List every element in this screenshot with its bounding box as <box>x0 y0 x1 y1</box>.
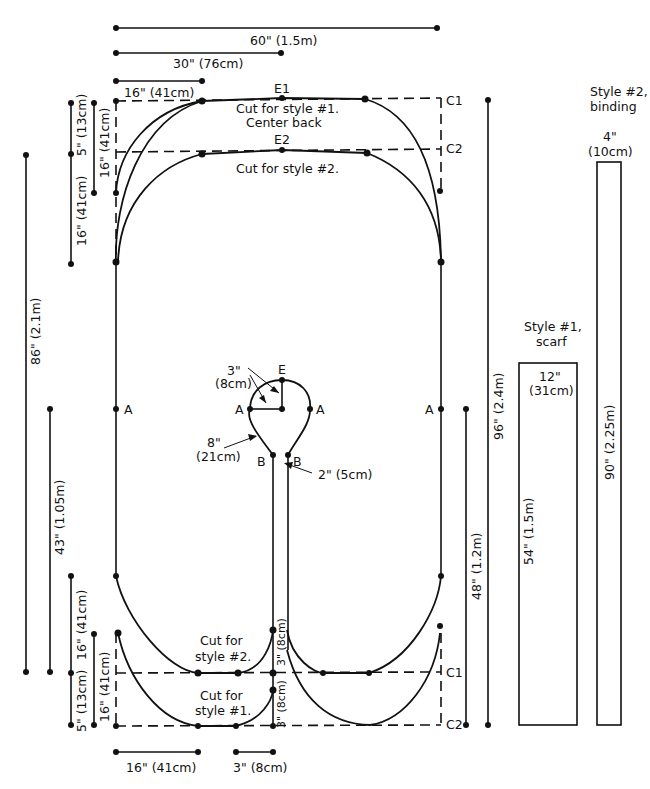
binding-width-value: 4" <box>603 129 617 144</box>
label-16in-left-upper: 16" (41cm) <box>74 176 89 246</box>
scarf-length: 54" (1.5m) <box>521 498 536 565</box>
dimension-bottom-gap: 3" (8cm) <box>233 749 287 775</box>
binding-width-metric: (10cm) <box>588 144 633 159</box>
label-16in-bottom: 16" (41cm) <box>126 760 196 775</box>
label-c1-bottom: C1 <box>446 665 463 680</box>
label-style1-bottom: style #1. <box>195 703 251 718</box>
label-a-neck-left: A <box>235 402 244 417</box>
label-e-neck: E <box>278 362 286 377</box>
label-16in-bottom-inner: 16" (41cm) <box>97 652 112 722</box>
label-60in: 60" (1.5m) <box>250 33 317 48</box>
scarf-width-metric: (31cm) <box>529 383 574 398</box>
label-5in-bottom: 5" (13cm) <box>74 670 89 732</box>
label-16in-top-inner: 16" (41cm) <box>97 108 112 178</box>
label-3in-bottom: 3" (8cm) <box>233 760 287 775</box>
binding-piece: Style #2, binding 4" (10cm) 90" (2.25m) <box>588 84 648 725</box>
binding-title-line2: binding <box>590 99 637 114</box>
label-radius-metric: (8cm) <box>215 376 252 391</box>
dimension-bottom-left-stack: 16" (41cm) 5" (13cm) <box>68 573 89 732</box>
label-c1-top: C1 <box>446 93 463 108</box>
dimension-full-width: 60" (1.5m) <box>113 25 440 48</box>
label-b-left: B <box>257 454 266 469</box>
dimension-bottom-inner: 16" (41cm) <box>91 631 112 728</box>
label-5in-top: 5" (13cm) <box>74 94 89 156</box>
scarf-title-line2: scarf <box>536 334 567 349</box>
dimension-86in: 86" (2.1m) <box>23 152 43 675</box>
label-a-neck-right: A <box>316 402 325 417</box>
label-c2-top: C2 <box>446 141 463 156</box>
label-stem-upper: 3" (8cm) <box>275 618 288 666</box>
label-cut-style1-top: Cut for style #1. <box>236 101 339 116</box>
scarf-width-value: 12" <box>539 369 561 384</box>
binding-title-line1: Style #2, <box>590 84 648 99</box>
label-cut-for-a: Cut for <box>200 633 244 648</box>
label-86in: 86" (2.1m) <box>28 298 43 365</box>
label-style2-bottom: style #2. <box>195 649 251 664</box>
dimension-half-width: 30" (76cm) <box>113 50 284 71</box>
label-48in: 48" (1.2m) <box>469 533 484 600</box>
label-e2: E2 <box>274 132 290 147</box>
scarf-piece: Style #1, scarf 12" (31cm) 54" (1.5m) <box>519 319 582 725</box>
label-curve-metric: (21cm) <box>196 449 241 464</box>
label-96in: 96" (2.4m) <box>491 373 506 440</box>
dimension-96in: 96" (2.4m) <box>485 97 506 728</box>
label-curve-value: 8" <box>207 435 221 450</box>
label-16in-left-lower: 16" (41cm) <box>74 590 89 660</box>
dimension-top-corner: 16" (41cm) <box>113 78 205 100</box>
label-43in: 43" (1.05m) <box>52 480 67 555</box>
dimension-top-inner: 16" (41cm) <box>91 100 112 196</box>
label-c2-bottom: C2 <box>446 717 463 732</box>
dimension-43in: 43" (1.05m) <box>47 406 67 675</box>
label-gap: 2" (5cm) <box>318 467 372 482</box>
dimension-48in: 48" (1.2m) <box>463 406 484 728</box>
label-a-right: A <box>425 402 434 417</box>
label-stem-lower: 3" (8cm) <box>275 680 288 728</box>
label-cut-for-b: Cut for <box>200 688 244 703</box>
label-a-left: A <box>124 402 133 417</box>
label-cut-style2-top: Cut for style #2. <box>236 161 339 176</box>
binding-length: 90" (2.25m) <box>602 405 617 480</box>
label-e1: E1 <box>274 81 290 96</box>
sewing-pattern-diagram: 60" (1.5m) 30" (76cm) 16" (41cm) 86" (2.… <box>0 0 650 789</box>
scarf-title-line1: Style #1, <box>524 319 582 334</box>
label-center-back: Center back <box>246 115 323 130</box>
dimension-bottom-corner: 16" (41cm) <box>113 749 201 775</box>
label-30in: 30" (76cm) <box>173 56 243 71</box>
dimension-top-left-stack: 5" (13cm) 16" (41cm) <box>68 94 89 267</box>
label-16in-top: 16" (41cm) <box>124 85 194 100</box>
